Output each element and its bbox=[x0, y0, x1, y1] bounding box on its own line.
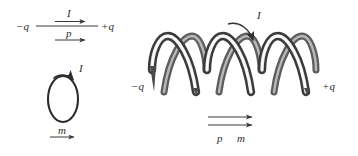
solenoid-panel bbox=[150, 23, 316, 125]
current-loop-ellipse bbox=[48, 76, 78, 122]
dipole-negative-charge-label: −q bbox=[16, 21, 29, 32]
physics-figure: −q +q I p I m −q +q I p m bbox=[0, 0, 358, 156]
figure-canvas bbox=[0, 0, 358, 156]
solenoid-negative-charge-label: −q bbox=[131, 81, 144, 92]
solenoid-magnetic-moment-label: m bbox=[237, 133, 245, 144]
dipole-current-label: I bbox=[67, 8, 71, 19]
solenoid-wire-tips bbox=[150, 66, 310, 95]
dipole-moment-label: p bbox=[66, 28, 72, 39]
dipole-positive-charge-label: +q bbox=[101, 21, 114, 32]
solenoid-electric-moment-label: p bbox=[217, 133, 223, 144]
loop-current-label: I bbox=[79, 63, 83, 74]
solenoid-current-label: I bbox=[257, 10, 261, 21]
loop-magnetic-moment-label: m bbox=[58, 125, 66, 136]
solenoid-positive-charge-label: +q bbox=[322, 81, 335, 92]
